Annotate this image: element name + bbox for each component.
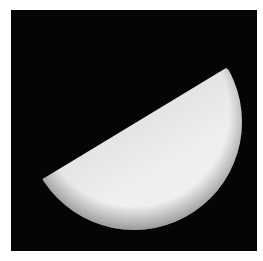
lit-hemisphere	[26, 14, 242, 230]
planet-image	[0, 0, 263, 261]
